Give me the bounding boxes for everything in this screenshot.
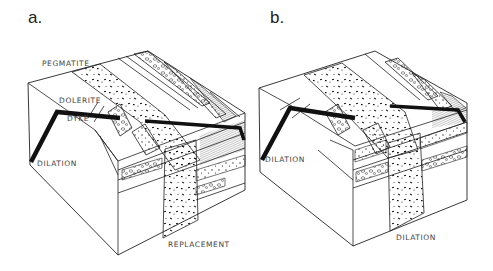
pegmatite-label: PEGMATITE (42, 59, 90, 68)
dilation-label-b-bottom: DILATION (396, 233, 436, 242)
dilation-label-b-left: DILATION (265, 155, 305, 164)
dilation-label-a: DILATION (37, 159, 77, 168)
panel-b-diagram: DILATION DILATION (259, 51, 467, 246)
replacement-label: REPLACEMENT (168, 240, 230, 249)
panel-a-diagram: PEGMATITE DOLERITE DYKE DILATION REPLACE… (28, 51, 245, 255)
dyke-label: DYKE (67, 114, 89, 123)
block-diagrams: PEGMATITE DOLERITE DYKE DILATION REPLACE… (0, 0, 493, 271)
dolerite-label: DOLERITE (59, 96, 101, 105)
